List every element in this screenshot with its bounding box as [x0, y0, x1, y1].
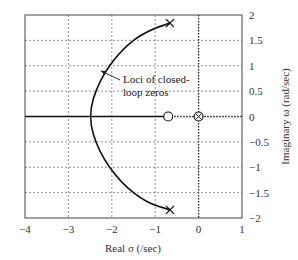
y-axis-ticks: 21.510.50−0.5−1−1.5−2	[249, 9, 269, 224]
y-tick-label: −1	[249, 161, 261, 173]
pole-x-icon	[166, 206, 174, 214]
y-tick-label: 2	[249, 9, 255, 21]
zero-circle-icon	[164, 112, 173, 121]
annotation-line-1: Loci of closed-	[123, 73, 190, 85]
root-locus-chart: −4−3−2−101 21.510.50−0.5−1−1.5−2 Loci of…	[0, 0, 298, 260]
annotation-line-2: loop zeros	[123, 86, 169, 98]
x-tick-label: −1	[149, 223, 161, 235]
y-tick-label: 1	[249, 60, 255, 72]
x-tick-label: −4	[19, 223, 31, 235]
pole-x-icon	[166, 19, 174, 27]
y-tick-label: 1.5	[249, 34, 263, 46]
x-tick-label: −2	[106, 223, 118, 235]
y-tick-label: −2	[249, 212, 261, 224]
x-tick-label: 0	[196, 223, 202, 235]
x-axis-label: Real σ (/sec)	[105, 242, 161, 255]
y-axis-label: Imaginary ω (rad/sec)	[279, 68, 292, 165]
x-tick-label: 1	[239, 223, 245, 235]
y-tick-label: −0.5	[249, 136, 269, 148]
y-tick-label: −1.5	[249, 187, 269, 199]
x-tick-label: −3	[63, 223, 75, 235]
circled-x-icon	[194, 112, 203, 121]
annotation: Loci of closed- loop zeros	[101, 71, 190, 98]
y-tick-label: 0.5	[249, 85, 263, 97]
locus-curves	[25, 23, 170, 210]
y-tick-label: 0	[249, 111, 255, 123]
x-axis-ticks: −4−3−2−101	[19, 223, 245, 235]
